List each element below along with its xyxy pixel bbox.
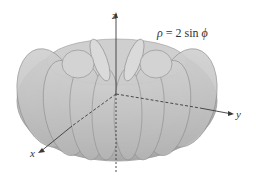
torus-surface-graphic — [0, 0, 256, 181]
torus-diagram: ρ = 2 sin ϕ z y x — [0, 0, 256, 181]
x-axis-label: x — [30, 147, 35, 159]
y-arrow-icon — [228, 111, 234, 116]
equation-label: ρ = 2 sin ϕ — [157, 26, 208, 41]
z-axis-label: z — [112, 9, 116, 21]
y-axis-label: y — [236, 108, 241, 120]
